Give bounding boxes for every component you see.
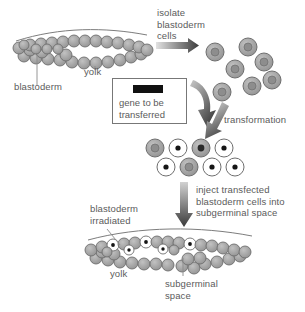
label-yolk-top: yolk (84, 66, 101, 78)
gene-bar-icon (133, 85, 163, 93)
label-blastoderm-top: blastoderm (14, 81, 62, 93)
label-transformation: transformation (224, 114, 286, 126)
inject-arrow (175, 182, 193, 227)
gene-to-be-transferred-box: gene to be transferred (112, 78, 187, 124)
label-isolate-step: isolate blastoderm cells (157, 7, 205, 42)
gene-box-label: gene to be transferred (119, 97, 165, 120)
label-subgerminal-space: subgerminal space (165, 278, 218, 301)
label-inject-step: inject transfected blastoderm cells into… (196, 184, 285, 219)
transformed-cells-cluster (146, 139, 244, 176)
label-blastoderm-irradiated: blastoderm irradiated (90, 203, 138, 226)
figure-canvas: gene to be transferred blastoderm yolk i… (0, 0, 305, 312)
diagram-graphics (0, 0, 305, 312)
label-yolk-bottom: yolk (110, 268, 127, 280)
isolated-cells-cluster (206, 38, 281, 101)
